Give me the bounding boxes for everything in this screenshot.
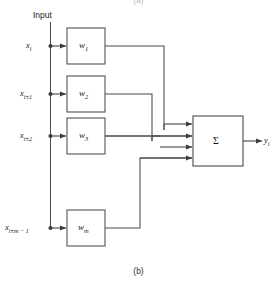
output-label-sub: i xyxy=(268,140,270,147)
weight-wm-sub: m xyxy=(84,227,89,234)
wire-w1-to-sum xyxy=(105,46,164,130)
input-tap-2-sub: i±1 xyxy=(24,93,32,100)
wire-w2-to-sum xyxy=(105,94,152,141)
weight-block-w3-label: w3 xyxy=(79,131,88,142)
weight-w1-sub: 1 xyxy=(85,45,88,52)
input-tap-4-sub: i±m − 1 xyxy=(9,227,29,234)
figure-container: (a) xyxy=(0,0,277,284)
input-tap-3-sub: i±2 xyxy=(24,135,32,142)
input-tap-label-4: xi±m − 1 xyxy=(5,223,29,234)
tap-feed-arrows xyxy=(51,46,66,228)
weight-to-sum-wires xyxy=(105,46,192,228)
figure-caption-b: (b) xyxy=(0,266,277,276)
weight-w3-sub: 3 xyxy=(85,135,88,142)
weight-block-wm-label: wm xyxy=(78,223,89,234)
weight-block-w1-label: w1 xyxy=(79,41,88,52)
sum-input-arrows xyxy=(152,124,192,158)
input-tap-1-sub: i xyxy=(30,45,32,52)
input-bus-label: Input xyxy=(33,10,52,20)
input-tap-label-2: xi±1 xyxy=(20,89,32,100)
summation-symbol: Σ xyxy=(213,136,219,146)
output-label: yi xyxy=(264,136,270,147)
block-diagram-canvas xyxy=(0,0,277,284)
weight-block-w2-label: w2 xyxy=(79,89,88,100)
wire-wm-to-sum xyxy=(105,158,192,228)
sum-corner-fixups xyxy=(105,124,164,158)
input-tap-label-3: xi±2 xyxy=(20,131,32,142)
input-tap-label-1: xi xyxy=(26,41,32,52)
weight-w2-sub: 2 xyxy=(85,93,88,100)
